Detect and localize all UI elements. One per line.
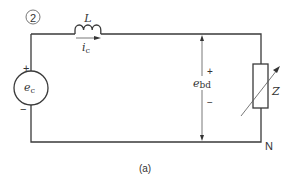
inductor-label: L bbox=[83, 12, 91, 25]
source-minus: − bbox=[20, 103, 26, 115]
voltage-minus: − bbox=[207, 97, 213, 108]
node-number-badge: 2 bbox=[26, 10, 40, 24]
node-number: 2 bbox=[30, 12, 36, 24]
impedance-box-icon bbox=[253, 64, 268, 108]
circuit-diagram: 2 L ic + − ec ebd + − Z N (a) bbox=[0, 0, 293, 183]
impedance-label: Z bbox=[271, 85, 280, 98]
current-label: ic bbox=[82, 41, 91, 55]
wire-top-right bbox=[101, 34, 261, 64]
neutral-label: N bbox=[265, 140, 273, 152]
current-arrow-icon bbox=[76, 36, 101, 40]
wire-bottom bbox=[31, 105, 261, 142]
voltage-plus: + bbox=[207, 66, 213, 77]
figure-caption: (a) bbox=[139, 163, 151, 174]
source-label: ec bbox=[24, 81, 36, 95]
inductor-icon bbox=[75, 25, 101, 34]
source-plus: + bbox=[23, 62, 29, 74]
